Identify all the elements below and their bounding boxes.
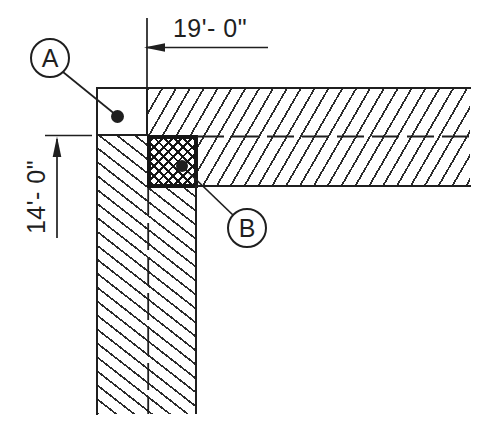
arrowhead-up-icon (53, 137, 62, 158)
callout-a-balloon: A (30, 38, 70, 78)
callout-a-label: A (42, 46, 59, 71)
dimension-horizontal-label: 19'- 0" (160, 14, 260, 43)
dimension-vertical-label: 14'- 0" (21, 147, 51, 247)
callout-b-balloon: B (227, 208, 267, 248)
leader-dot-b (176, 160, 188, 172)
leader-dot-a (111, 110, 124, 123)
leader-line-b (183, 167, 234, 216)
drawing-canvas: A B 19'- 0" 14'- 0" (0, 0, 491, 441)
leader-line-a (63, 72, 116, 115)
callout-b-label: B (239, 216, 256, 241)
